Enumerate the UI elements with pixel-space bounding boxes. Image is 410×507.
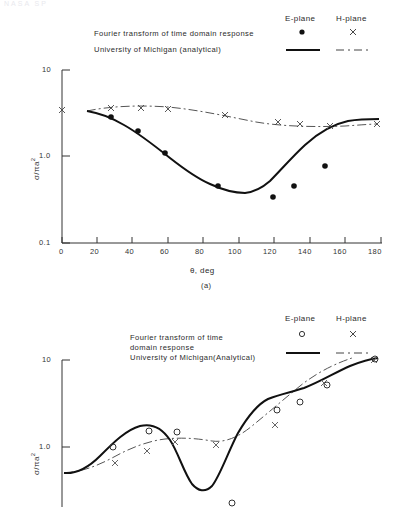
series-a-h-plane-analytical: [87, 106, 378, 126]
series-b-e-plane-analytical: [64, 358, 378, 490]
chart-panel-b: E-plane H-plane Fourier transform of tim…: [0, 300, 410, 507]
axis-b: [62, 360, 70, 507]
series-b-h-plane-analytical: [64, 358, 352, 473]
plot-b-svg: [0, 300, 410, 507]
series-a-e-plane-measured-points: [108, 114, 328, 200]
axis-a: [62, 70, 382, 243]
plot-a-svg: [0, 0, 410, 300]
series-a-e-plane-analytical: [87, 111, 379, 193]
chart-panel-a: E-plane H-plane Fourier transform of tim…: [0, 0, 410, 300]
series-b-e-plane-measured-points: [110, 356, 378, 506]
figure-container: NASA SP E-plane H-plane Fourier transfor…: [0, 0, 410, 507]
series-b-h-plane-measured-points: [112, 357, 377, 466]
